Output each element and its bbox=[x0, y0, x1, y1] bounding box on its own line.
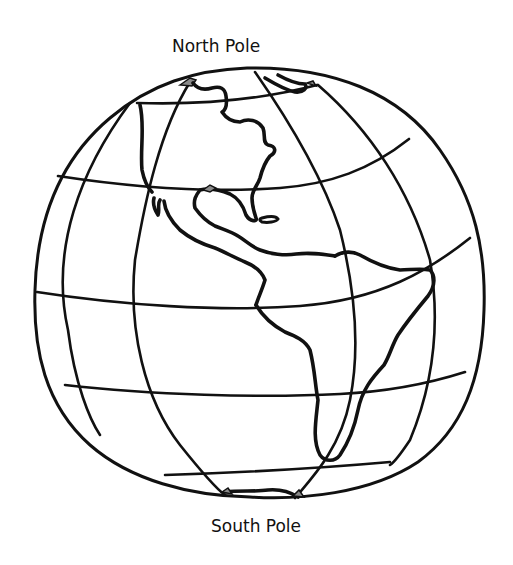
globe-outline bbox=[35, 68, 484, 498]
caribbean-island bbox=[260, 217, 278, 223]
globe-illustration bbox=[0, 0, 513, 565]
south-pole-label: South Pole bbox=[211, 516, 301, 536]
